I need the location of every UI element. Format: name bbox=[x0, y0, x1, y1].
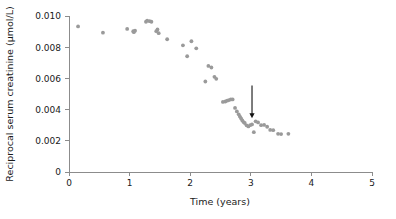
data-point bbox=[194, 46, 198, 50]
data-point bbox=[150, 20, 154, 24]
data-point bbox=[203, 80, 207, 84]
x-tick-label: 0 bbox=[66, 178, 72, 188]
data-point bbox=[76, 25, 80, 29]
y-tick-label: 0 bbox=[55, 167, 61, 177]
scatter-plot: 00.0020.0040.0060.0080.010 012345 Time (… bbox=[0, 0, 396, 219]
x-tick-label: 3 bbox=[248, 178, 254, 188]
x-axis-ticks: 012345 bbox=[66, 172, 375, 188]
data-point bbox=[271, 128, 275, 132]
x-axis-label: Time (years) bbox=[189, 196, 250, 207]
data-point bbox=[233, 106, 237, 110]
data-point bbox=[250, 123, 254, 127]
x-tick-label: 1 bbox=[127, 178, 133, 188]
data-point bbox=[214, 77, 218, 81]
y-axis-ticks: 00.0020.0040.0060.0080.010 bbox=[35, 11, 69, 177]
arrow-head bbox=[249, 113, 254, 118]
data-point bbox=[231, 98, 235, 102]
data-point bbox=[133, 29, 137, 33]
x-tick-label: 5 bbox=[369, 178, 375, 188]
chart-container: 00.0020.0040.0060.0080.010 012345 Time (… bbox=[0, 0, 396, 219]
data-point bbox=[279, 132, 283, 136]
data-point bbox=[181, 43, 185, 47]
data-points bbox=[76, 19, 290, 136]
data-point bbox=[185, 54, 189, 58]
y-tick-label: 0.002 bbox=[35, 136, 61, 146]
y-axis-label: Reciprocal serum creatinine (μmol/L) bbox=[4, 6, 15, 181]
data-point bbox=[165, 37, 169, 41]
x-tick-label: 4 bbox=[309, 178, 315, 188]
y-tick-label: 0.004 bbox=[35, 105, 61, 115]
data-point bbox=[265, 125, 269, 129]
y-tick-label: 0.008 bbox=[35, 43, 61, 53]
data-point bbox=[190, 39, 194, 43]
data-point bbox=[286, 132, 290, 136]
data-point bbox=[256, 120, 260, 124]
annotations-layer bbox=[249, 85, 254, 118]
x-tick-label: 2 bbox=[187, 178, 193, 188]
y-tick-label: 0.006 bbox=[35, 74, 61, 84]
data-point bbox=[252, 130, 256, 134]
y-tick-label: 0.010 bbox=[35, 11, 61, 21]
data-point bbox=[156, 28, 160, 32]
data-point bbox=[125, 27, 129, 31]
data-point bbox=[210, 66, 214, 70]
data-point bbox=[101, 31, 105, 35]
data-point bbox=[157, 31, 161, 35]
